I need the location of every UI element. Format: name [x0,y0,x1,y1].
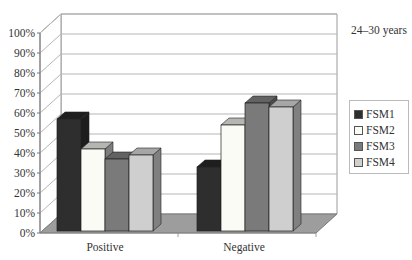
legend-label: FSM1 [366,108,395,120]
legend-label: FSM4 [366,156,395,168]
bar-front [269,107,293,231]
x-category-label: Positive [86,241,123,253]
y-tick-label: 40% [14,147,36,159]
legend-label: FSM3 [366,140,395,152]
legend-swatch-fsm2 [354,126,363,135]
y-axis: 0%10%20%30%40%50%60%70%80%90%100% [8,27,40,239]
legend-item-fsm4: FSM4 [354,155,395,169]
y-tick-label: 0% [20,227,36,239]
x-axis: PositiveNegative [40,233,316,254]
bar-front [221,125,245,231]
bar-side [293,100,301,231]
legend-item-fsm1: FSM1 [354,107,395,121]
legend-swatch-fsm3 [354,142,363,151]
bar-front [129,155,153,231]
chart-subtitle: 24–30 years [351,24,407,36]
y-tick-label: 100% [8,27,35,39]
bar-fsm4-positive [129,148,161,231]
legend: FSM1 FSM2 FSM3 FSM4 [349,100,409,174]
bar-front [81,149,105,231]
bar-front [105,159,129,231]
bar-front [57,119,81,231]
legend-item-fsm2: FSM2 [354,123,395,137]
y-tick-label: 70% [14,87,36,99]
bar-front [245,103,269,231]
y-tick-label: 80% [14,67,36,79]
y-tick-label: 60% [14,107,36,119]
bar-fsm4-negative [269,100,301,231]
y-tick-label: 20% [14,187,36,199]
legend-label: FSM2 [366,124,395,136]
legend-item-fsm3: FSM3 [354,139,395,153]
x-category-label: Negative [223,241,265,254]
y-tick-label: 50% [14,127,36,139]
legend-swatch-fsm1 [354,110,363,119]
bar-front [197,167,221,231]
y-tick-label: 30% [14,167,36,179]
y-tick-label: 10% [14,207,36,219]
bar-side [153,148,161,231]
legend-swatch-fsm4 [354,158,363,167]
y-tick-label: 90% [14,47,36,59]
